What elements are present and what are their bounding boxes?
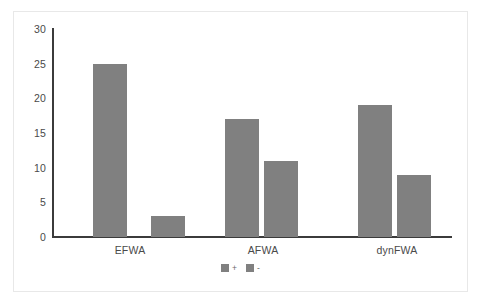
y-tick-label-5: 5 [40,196,46,208]
bar-efwa-minus [151,216,185,237]
y-tick-label-30: 30 [34,23,46,35]
legend-label-minus: - [257,264,260,273]
legend-entry-plus: + [221,264,237,273]
x-category-label-dynfwa: dynFWA [376,244,417,256]
y-tick-label-20: 20 [34,92,46,104]
bar-afwa-minus [264,161,298,237]
x-category-label-efwa: EFWA [115,244,146,256]
legend-swatch-icon-plus [221,264,229,272]
legend-swatch-icon-minus [246,264,254,272]
bar-afwa-plus [225,119,259,237]
y-tick-label-10: 10 [34,162,46,174]
bar-efwa-plus [93,64,127,237]
x-category-label-afwa: AFWA [248,244,279,256]
legend-entry-minus: - [246,264,260,273]
y-tick-label-15: 15 [34,127,46,139]
y-tick-label-0: 0 [40,231,46,243]
bar-dynfwa-plus [358,105,392,237]
chart-legend: + - [14,264,467,273]
plot-area: 0 5 10 15 20 25 30 [52,29,450,237]
y-tick-label-25: 25 [34,58,46,70]
bar-chart-figure: 0 5 10 15 20 25 30 EFWA AFWA dynFWA + - [13,11,468,292]
bar-dynfwa-minus [397,175,431,237]
legend-label-plus: + [232,264,237,273]
